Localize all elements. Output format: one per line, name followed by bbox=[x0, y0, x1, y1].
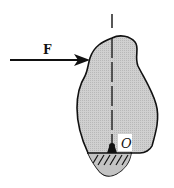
force-label: F bbox=[43, 43, 52, 57]
pivot-label: O bbox=[121, 136, 132, 151]
rigid-body-diagram: O F bbox=[0, 0, 174, 188]
